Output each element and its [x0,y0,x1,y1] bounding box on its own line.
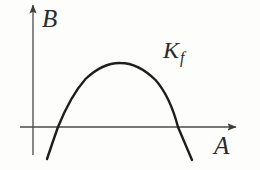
parabola-curve [47,63,192,160]
figure-canvas: B A Kf [0,0,260,170]
curve-label-base: K [163,37,179,63]
y-axis-label: B [42,6,57,31]
x-axis-label: A [214,133,229,158]
curve-label: Kf [163,38,184,66]
curve-label-subscript: f [179,49,184,66]
